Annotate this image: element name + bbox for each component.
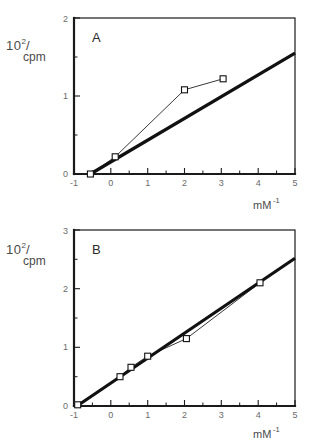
panel-a-letter: A bbox=[92, 30, 101, 45]
panel-b-ytick-0: 0 bbox=[63, 401, 68, 411]
panel-b-xtick-6: 5 bbox=[292, 410, 297, 420]
plot-panel-b: 102/ cpm bbox=[0, 222, 315, 444]
panel-a-xtick-0: -1 bbox=[70, 178, 78, 188]
panel-a-ytick-2: 2 bbox=[63, 14, 68, 24]
panel-b-data-point bbox=[128, 364, 134, 370]
panel-a-xtick-5: 4 bbox=[256, 178, 261, 188]
panel-a-data-connector bbox=[90, 79, 223, 174]
panel-a-fit-line bbox=[90, 53, 295, 174]
panel-a-xtick-3: 2 bbox=[182, 178, 187, 188]
panel-b-data-point bbox=[183, 336, 189, 342]
panel-b-xtick-3: 2 bbox=[182, 410, 187, 420]
panel-a-xtick-2: 1 bbox=[145, 178, 150, 188]
panel-b-ytick-1: 1 bbox=[63, 342, 68, 352]
panel-b-x-axis-title-main: mM bbox=[253, 428, 271, 440]
panel-b-ytick-2: 2 bbox=[63, 284, 68, 294]
panel-b-data-point bbox=[75, 402, 81, 408]
panel-a-ytick-1: 1 bbox=[63, 91, 68, 101]
panel-b-y-axis-label-main: 10 bbox=[6, 242, 21, 257]
panel-a-data-point bbox=[112, 154, 118, 160]
panel-a-x-tick-labels: -1 0 1 2 3 4 5 bbox=[70, 178, 298, 188]
panel-b-x-tick-labels: -1 0 1 2 3 4 5 bbox=[70, 410, 298, 420]
panel-a-frame bbox=[74, 18, 295, 174]
panel-b-y-axis-label: 102/ cpm bbox=[6, 240, 46, 268]
panel-b-data-point bbox=[257, 280, 263, 286]
panel-b-x-axis-title-exponent: -1 bbox=[273, 425, 280, 434]
panel-b-xtick-0: -1 bbox=[70, 410, 78, 420]
panel-b-frame bbox=[74, 230, 295, 406]
panel-a-y-axis-label-main: 10 bbox=[6, 38, 21, 53]
panel-b-xtick-2: 1 bbox=[145, 410, 150, 420]
panel-a-xtick-1: 0 bbox=[108, 178, 113, 188]
panel-b-y-axis-label-denominator: cpm bbox=[23, 254, 46, 268]
panel-a-xtick-4: 3 bbox=[219, 178, 224, 188]
panel-b-letter: B bbox=[92, 242, 101, 257]
panel-a-xtick-6: 5 bbox=[292, 178, 297, 188]
plot-panel-a: 102/ cpm bbox=[0, 0, 315, 222]
panel-a-x-axis-title-exponent: -1 bbox=[273, 196, 280, 205]
panel-a-data-point bbox=[182, 87, 188, 93]
panel-a-y-axis-label-denominator: cpm bbox=[23, 50, 46, 64]
panel-a-plot-area: -1 0 1 2 3 4 5 0 1 2 A mM bbox=[0, 0, 315, 222]
panel-b-xtick-4: 3 bbox=[219, 410, 224, 420]
panel-b-y-tick-labels: 0 1 2 3 bbox=[63, 226, 68, 411]
panel-a-data-point bbox=[220, 76, 226, 82]
panel-a-ytick-0: 0 bbox=[63, 169, 68, 179]
panel-a-y-tick-labels: 0 1 2 bbox=[63, 14, 68, 179]
panel-a-x-axis-title-main: mM bbox=[253, 199, 271, 211]
panel-b-data-point bbox=[145, 353, 151, 359]
panel-b-x-axis-title: mM -1 bbox=[253, 425, 280, 440]
panel-b-xtick-5: 4 bbox=[256, 410, 261, 420]
panel-a-data-point bbox=[87, 171, 93, 177]
panel-a-y-axis-label: 102/ cpm bbox=[6, 36, 46, 64]
panel-a-x-axis-title: mM -1 bbox=[253, 196, 280, 211]
panel-b-plot-area: -1 0 1 2 3 4 5 0 1 2 3 B mM bbox=[0, 222, 315, 444]
panel-b-data-point bbox=[117, 374, 123, 380]
panel-b-xtick-1: 0 bbox=[108, 410, 113, 420]
panel-b-ytick-3: 3 bbox=[63, 226, 68, 236]
